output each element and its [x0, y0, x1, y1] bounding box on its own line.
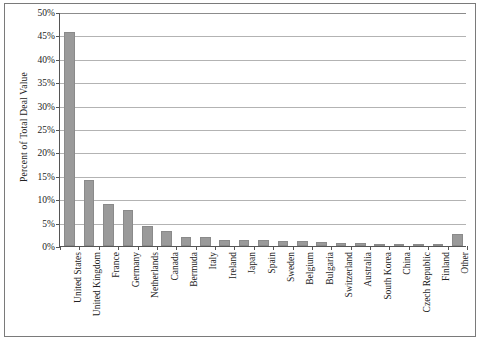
x-axis-labels: United StatesUnited KingdomFranceGermany… — [59, 252, 466, 342]
x-label-text: United Kingdom — [92, 252, 102, 316]
x-axis-label: Other — [460, 252, 470, 274]
x-label-text: Switzerland — [344, 252, 354, 297]
x-axis-label: Germany — [131, 252, 141, 287]
x-axis-label: Spain — [267, 252, 277, 274]
x-tick-mark — [467, 246, 468, 250]
bar — [413, 244, 424, 246]
x-axis-label: Canada — [170, 252, 180, 281]
x-tick-mark — [196, 246, 197, 250]
x-axis-label: Netherlands — [150, 252, 160, 298]
x-tick-mark — [389, 246, 390, 250]
bar — [239, 240, 250, 246]
bar — [452, 234, 463, 246]
bar — [278, 241, 289, 246]
x-label-text: Finland — [441, 252, 451, 281]
y-tick-label: 25% — [38, 125, 55, 135]
x-tick-mark — [428, 246, 429, 250]
bar — [219, 240, 230, 246]
x-label-text: France — [111, 252, 121, 278]
bar-series — [60, 13, 466, 246]
y-tick-label: 10% — [38, 195, 55, 205]
bar — [316, 242, 327, 246]
x-axis-label: Italy — [208, 252, 218, 269]
x-axis-label: South Korea — [383, 252, 393, 300]
bar — [64, 32, 75, 246]
bar — [84, 180, 95, 246]
x-tick-mark — [176, 246, 177, 250]
x-label-text: Spain — [267, 252, 277, 274]
x-axis-label: Bulgaria — [325, 252, 335, 285]
x-axis-label: Sweden — [286, 252, 296, 282]
x-axis-label: China — [402, 252, 412, 275]
x-tick-mark — [79, 246, 80, 250]
x-axis-label: France — [111, 252, 121, 278]
x-tick-mark — [60, 246, 61, 250]
x-tick-mark — [409, 246, 410, 250]
x-tick-mark — [157, 246, 158, 250]
x-axis-label: Ireland — [228, 252, 238, 279]
x-axis-label: Czech Republic — [422, 252, 432, 312]
x-tick-mark — [448, 246, 449, 250]
x-tick-mark — [273, 246, 274, 250]
y-tick-label: 0% — [42, 242, 55, 252]
x-label-text: Japan — [247, 252, 257, 274]
x-tick-mark — [351, 246, 352, 250]
bar — [200, 237, 211, 246]
x-axis-label: Bermuda — [189, 252, 199, 287]
x-tick-mark — [254, 246, 255, 250]
bar — [103, 204, 114, 246]
y-tick-label: 15% — [38, 172, 55, 182]
x-tick-mark — [370, 246, 371, 250]
plot-area: 0%5%10%15%20%25%30%35%40%45%50% — [59, 13, 466, 247]
x-axis-label: United Kingdom — [92, 252, 102, 316]
x-label-text: Italy — [208, 252, 218, 269]
chart-figure: Percent of Total Deal Value 0%5%10%15%20… — [0, 0, 481, 342]
x-label-text: Australia — [363, 252, 373, 287]
x-label-text: Other — [460, 252, 470, 274]
x-label-text: Bulgaria — [325, 252, 335, 285]
bar — [336, 243, 347, 246]
x-label-text: South Korea — [383, 252, 393, 300]
x-label-text: Czech Republic — [422, 252, 432, 312]
x-tick-mark — [215, 246, 216, 250]
x-axis-label: Australia — [363, 252, 373, 287]
x-tick-mark — [234, 246, 235, 250]
x-label-text: Bermuda — [189, 252, 199, 287]
x-label-text: Belgium — [305, 252, 315, 285]
x-axis-label: Switzerland — [344, 252, 354, 297]
x-tick-mark — [118, 246, 119, 250]
bar — [181, 237, 192, 246]
y-axis-title: Percent of Total Deal Value — [19, 37, 29, 217]
x-label-text: Sweden — [286, 252, 296, 282]
x-label-text: United States — [73, 252, 83, 303]
bar — [297, 241, 308, 246]
x-tick-mark — [312, 246, 313, 250]
y-tick-label: 45% — [38, 31, 55, 41]
bar — [258, 240, 269, 246]
bar — [374, 244, 385, 246]
y-tick-label: 20% — [38, 148, 55, 158]
bar — [161, 231, 172, 246]
bar — [355, 243, 366, 246]
x-label-text: Ireland — [228, 252, 238, 279]
x-tick-mark — [331, 246, 332, 250]
x-axis-label: Japan — [247, 252, 257, 274]
y-tick-label: 50% — [38, 8, 55, 18]
x-label-text: Canada — [170, 252, 180, 281]
x-label-text: Netherlands — [150, 252, 160, 298]
y-tick-label: 5% — [42, 219, 55, 229]
x-axis-label: Finland — [441, 252, 451, 281]
x-axis-label: Belgium — [305, 252, 315, 285]
bar — [394, 244, 405, 246]
x-tick-mark — [99, 246, 100, 250]
y-tick-label: 35% — [38, 78, 55, 88]
x-label-text: Germany — [131, 252, 141, 287]
x-axis-label: United States — [73, 252, 83, 303]
bar — [142, 226, 153, 246]
x-tick-mark — [293, 246, 294, 250]
x-tick-mark — [138, 246, 139, 250]
bar — [123, 210, 134, 247]
y-tick-label: 30% — [38, 102, 55, 112]
y-tick-label: 40% — [38, 55, 55, 65]
bar — [433, 244, 444, 246]
